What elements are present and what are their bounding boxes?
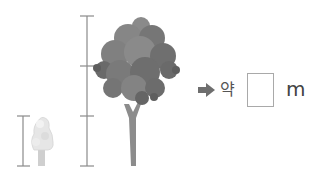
unit-label: m — [286, 78, 305, 100]
approx-label: 약 — [220, 80, 235, 100]
small-tree — [32, 117, 53, 166]
arrow-right-icon — [198, 83, 215, 97]
large-tree-ruler — [80, 16, 94, 166]
large-tree — [93, 17, 180, 166]
answer-input-box[interactable] — [247, 73, 274, 107]
small-tree-ruler — [17, 116, 30, 166]
